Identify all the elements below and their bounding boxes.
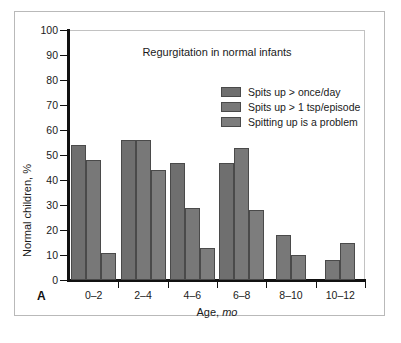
legend: Spits up > once/daySpits up > 1 tsp/epis…: [221, 86, 360, 131]
x-tick: [217, 282, 218, 288]
x-tick-label: 6–8: [233, 289, 251, 301]
bar: [101, 253, 116, 281]
y-tick-label: 90: [46, 49, 58, 61]
plot-frame-right: [364, 30, 365, 280]
x-axis-title-unit: mo: [222, 306, 237, 318]
chart-title: Regurgitation in normal infants: [69, 46, 365, 58]
y-tick-label: 60: [46, 124, 58, 136]
y-tick-label: 80: [46, 74, 58, 86]
y-tick: [60, 280, 68, 281]
y-tick: [60, 80, 68, 81]
x-tick-label: 0–2: [85, 289, 103, 301]
x-axis-title: Age, mo: [69, 306, 365, 318]
y-tick-label: 40: [46, 174, 58, 186]
x-tick: [316, 282, 317, 288]
bar: [151, 170, 166, 280]
bar: [136, 140, 151, 280]
x-tick-label: 2–4: [134, 289, 152, 301]
bar: [276, 235, 291, 280]
bar: [71, 145, 86, 280]
bar: [291, 255, 306, 280]
bar: [86, 160, 101, 280]
y-tick: [60, 180, 68, 181]
x-tick: [365, 282, 366, 288]
bar: [200, 248, 215, 281]
y-tick-label: 20: [46, 224, 58, 236]
legend-label: Spits up > 1 tsp/episode: [248, 101, 360, 113]
bar: [121, 140, 136, 280]
x-tick-label: 8–10: [279, 289, 302, 301]
plot-frame-top: [69, 30, 365, 31]
figure-panel: Normal children, % Regurgitation in norm…: [14, 11, 385, 316]
y-tick: [60, 205, 68, 206]
legend-swatch: [221, 117, 241, 127]
plot-area: Regurgitation in normal infants 01020304…: [69, 30, 365, 280]
y-tick: [60, 30, 68, 31]
legend-label: Spitting up is a problem: [248, 116, 358, 128]
bar: [170, 163, 185, 281]
y-tick-label: 0: [52, 274, 58, 286]
legend-swatch: [221, 102, 241, 112]
bar: [234, 148, 249, 281]
legend-item: Spits up > once/day: [221, 86, 360, 98]
y-tick-label: 50: [46, 149, 58, 161]
y-tick-label: 100: [40, 24, 58, 36]
y-axis-title-wrap: Normal children, %: [29, 12, 30, 315]
x-tick-label: 10–12: [326, 289, 355, 301]
legend-item: Spits up > 1 tsp/episode: [221, 101, 360, 113]
legend-item: Spitting up is a problem: [221, 116, 360, 128]
legend-swatch: [221, 87, 241, 97]
x-tick: [168, 282, 169, 288]
y-tick-label: 10: [46, 249, 58, 261]
y-tick-label: 30: [46, 199, 58, 211]
bar: [185, 208, 200, 281]
y-tick: [60, 105, 68, 106]
y-tick: [60, 130, 68, 131]
x-tick: [266, 282, 267, 288]
bar: [219, 163, 234, 281]
panel-label: A: [37, 289, 46, 303]
y-tick: [60, 155, 68, 156]
y-tick: [60, 55, 68, 56]
y-tick: [60, 255, 68, 256]
bar: [325, 260, 340, 280]
x-tick: [118, 282, 119, 288]
y-axis-title: Normal children, %: [21, 164, 33, 257]
x-axis-title-plain: Age,: [197, 306, 220, 318]
bar: [340, 243, 355, 281]
y-tick: [60, 230, 68, 231]
legend-label: Spits up > once/day: [248, 86, 341, 98]
y-tick-label: 70: [46, 99, 58, 111]
bar: [249, 210, 264, 280]
x-tick-label: 4–6: [184, 289, 202, 301]
